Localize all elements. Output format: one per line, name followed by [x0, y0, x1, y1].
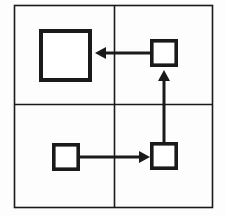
quadrant-arrow-diagram: [0, 0, 226, 215]
bottom-right-square: [152, 144, 176, 168]
top-right-square: [152, 41, 176, 65]
diagram-canvas: [0, 0, 226, 215]
diagram-background: [0, 0, 226, 215]
large-square: [41, 31, 90, 80]
bottom-left-square: [54, 145, 78, 169]
